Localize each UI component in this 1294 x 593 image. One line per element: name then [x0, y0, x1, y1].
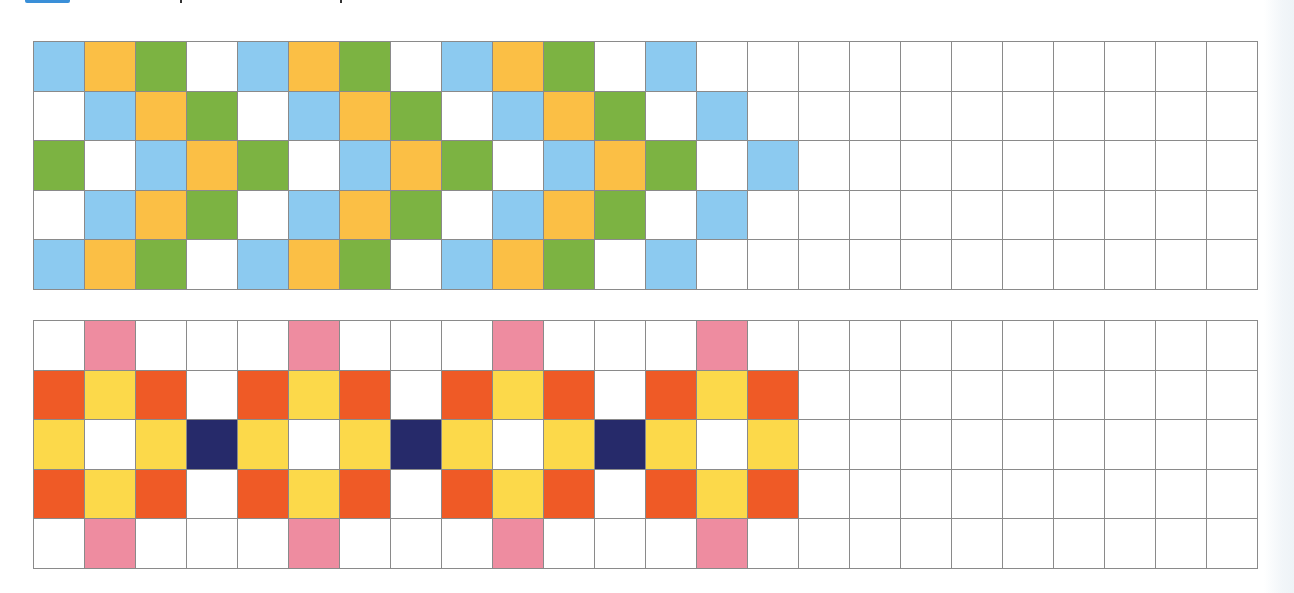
grid-cell-white: [952, 519, 1003, 569]
grid-cell-white: [85, 141, 136, 191]
grid-cell-white: [1207, 141, 1258, 191]
grid-cell-white: [1105, 240, 1156, 290]
grid-cell-red-orange: [34, 371, 85, 421]
grid-cell-white: [595, 42, 646, 92]
grid-cell-light-blue: [340, 141, 391, 191]
grid-cell-white: [1207, 42, 1258, 92]
grid-cell-white: [799, 240, 850, 290]
grid-cell-green: [391, 92, 442, 142]
grid-cell-white: [1003, 519, 1054, 569]
grid-cell-green: [646, 141, 697, 191]
grid-cell-white: [1054, 240, 1105, 290]
grid-cell-white: [799, 371, 850, 421]
grid-cell-white: [1003, 141, 1054, 191]
grid-cell-white: [850, 470, 901, 520]
grid-cell-yellow: [442, 420, 493, 470]
grid-cell-yellow: [493, 371, 544, 421]
grid-cell-white: [799, 470, 850, 520]
grid-cell-green: [544, 240, 595, 290]
grid-cell-light-blue: [136, 141, 187, 191]
grid-cell-white: [595, 470, 646, 520]
grid-cell-white: [1156, 420, 1207, 470]
grid-cell-white: [1054, 42, 1105, 92]
grid-cell-white: [697, 240, 748, 290]
grid-cell-yellow: [136, 420, 187, 470]
grid-cell-white: [595, 240, 646, 290]
grid-cell-orange: [187, 141, 238, 191]
grid-cell-green: [340, 240, 391, 290]
grid-cell-white: [1207, 420, 1258, 470]
bottom-pattern-grid: [33, 320, 1258, 569]
grid-cell-white: [1207, 371, 1258, 421]
grid-cell-light-blue: [85, 191, 136, 241]
grid-cell-pink: [289, 519, 340, 569]
grid-cell-white: [391, 470, 442, 520]
grid-cell-white: [1207, 470, 1258, 520]
grid-cell-light-blue: [544, 141, 595, 191]
grid-cell-white: [442, 321, 493, 371]
grid-cell-orange: [340, 191, 391, 241]
grid-cell-pink: [493, 519, 544, 569]
grid-cell-white: [1105, 321, 1156, 371]
grid-cell-orange: [85, 42, 136, 92]
grid-cell-white: [952, 321, 1003, 371]
grid-cell-green: [34, 141, 85, 191]
grid-cell-orange: [136, 191, 187, 241]
grid-cell-white: [34, 191, 85, 241]
grid-cell-white: [595, 519, 646, 569]
grid-cell-green: [238, 141, 289, 191]
grid-cell-white: [1105, 470, 1156, 520]
grid-cell-white: [646, 321, 697, 371]
grid-cell-white: [238, 321, 289, 371]
grid-cell-white: [697, 420, 748, 470]
grid-cell-white: [646, 519, 697, 569]
grid-cell-yellow: [289, 371, 340, 421]
grid-cell-white: [748, 42, 799, 92]
grid-cell-white: [901, 321, 952, 371]
grid-cell-yellow: [646, 420, 697, 470]
grid-cell-white: [595, 371, 646, 421]
grid-cell-white: [1156, 371, 1207, 421]
grid-cell-white: [952, 420, 1003, 470]
grid-cell-orange: [85, 240, 136, 290]
grid-cell-white: [1054, 420, 1105, 470]
header-accent-bar: [25, 0, 70, 3]
grid-cell-white: [442, 92, 493, 142]
grid-cell-white: [850, 240, 901, 290]
grid-cell-white: [901, 371, 952, 421]
grid-cell-navy: [187, 420, 238, 470]
grid-cell-white: [850, 191, 901, 241]
grid-cell-white: [1054, 191, 1105, 241]
grid-cell-yellow: [340, 420, 391, 470]
grid-cell-white: [1156, 321, 1207, 371]
header-text-fragment: [340, 0, 342, 3]
grid-cell-yellow: [544, 420, 595, 470]
grid-cell-white: [1105, 519, 1156, 569]
grid-cell-white: [1105, 42, 1156, 92]
grid-cell-red-orange: [442, 371, 493, 421]
grid-cell-white: [136, 519, 187, 569]
grid-cell-white: [901, 141, 952, 191]
grid-cell-white: [952, 92, 1003, 142]
grid-cell-white: [1003, 42, 1054, 92]
grid-cell-white: [1054, 92, 1105, 142]
grid-cell-light-blue: [34, 240, 85, 290]
grid-cell-white: [85, 420, 136, 470]
grid-cell-white: [595, 321, 646, 371]
grid-cell-red-orange: [238, 470, 289, 520]
grid-cell-yellow: [34, 420, 85, 470]
grid-cell-red-orange: [238, 371, 289, 421]
grid-cell-white: [391, 42, 442, 92]
grid-cell-white: [901, 240, 952, 290]
grid-cell-light-blue: [493, 92, 544, 142]
grid-cell-white: [1105, 420, 1156, 470]
grid-cell-white: [646, 191, 697, 241]
grid-cell-white: [1105, 191, 1156, 241]
page-edge-shadow: [1264, 0, 1294, 593]
grid-cell-white: [1105, 371, 1156, 421]
grid-cell-yellow: [85, 470, 136, 520]
grid-cell-white: [340, 519, 391, 569]
grid-cell-green: [442, 141, 493, 191]
grid-cell-orange: [595, 141, 646, 191]
grid-cell-white: [748, 191, 799, 241]
